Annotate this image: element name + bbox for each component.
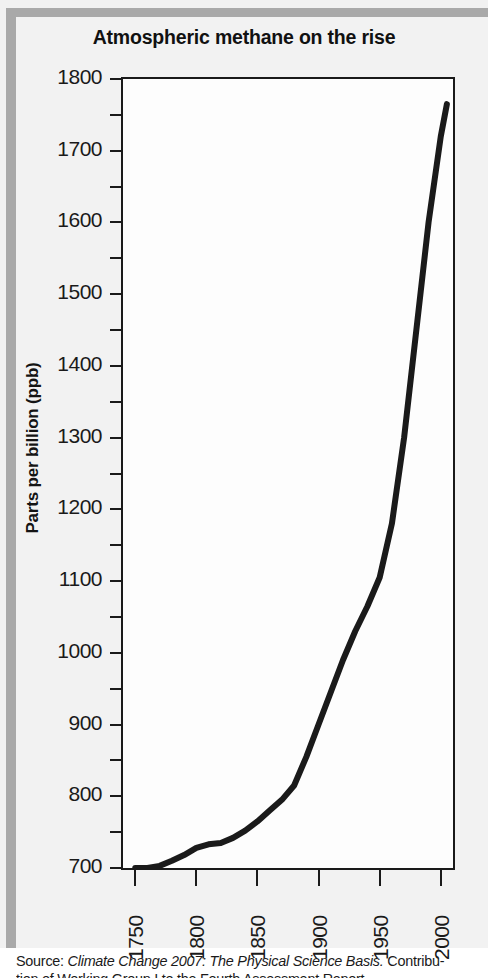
y-axis-minor-tick-1750 <box>110 114 121 116</box>
y-axis-label-1300: 1300 <box>36 424 102 448</box>
y-axis-label-1200: 1200 <box>36 495 102 519</box>
y-axis-tick-1500 <box>110 293 121 295</box>
y-axis-tick-1600 <box>110 221 121 223</box>
y-axis-label-700: 700 <box>36 854 102 878</box>
x-axis-label-1900: 1900 <box>308 890 330 960</box>
x-axis-label-1850: 1850 <box>246 890 268 960</box>
y-axis-label-1800: 1800 <box>36 65 102 89</box>
y-axis-label-1000: 1000 <box>36 639 102 663</box>
y-axis-minor-tick-1050 <box>110 616 121 618</box>
x-axis-label-1800: 1800 <box>185 890 207 960</box>
x-axis-tick-1950 <box>379 870 381 886</box>
y-axis-minor-tick-1650 <box>110 186 121 188</box>
x-axis-label-1950: 1950 <box>369 890 391 960</box>
y-axis-label-900: 900 <box>36 711 102 735</box>
y-axis-minor-tick-1350 <box>110 401 121 403</box>
y-axis-tick-1400 <box>110 365 121 367</box>
y-axis-tick-800 <box>110 795 121 797</box>
y-axis-title: Parts per billion (ppb) <box>23 298 43 598</box>
y-axis-label-800: 800 <box>36 782 102 806</box>
x-axis-tick-2000 <box>440 870 442 886</box>
y-axis-minor-tick-1250 <box>110 473 121 475</box>
y-axis-tick-1000 <box>110 652 121 654</box>
y-axis-minor-tick-1150 <box>110 544 121 546</box>
y-axis-minor-tick-750 <box>110 831 121 833</box>
figure-page: Atmospheric methane on the rise Parts pe… <box>0 0 488 978</box>
x-axis-tick-1850 <box>256 870 258 886</box>
y-axis-label-1100: 1100 <box>36 567 102 591</box>
y-axis-label-1700: 1700 <box>36 137 102 161</box>
plot-area <box>121 77 455 870</box>
y-axis-tick-1200 <box>110 508 121 510</box>
y-axis-label-1600: 1600 <box>36 208 102 232</box>
y-axis-minor-tick-1550 <box>110 257 121 259</box>
y-axis-tick-900 <box>110 724 121 726</box>
y-axis-tick-1300 <box>110 437 121 439</box>
x-axis-tick-1800 <box>195 870 197 886</box>
y-axis-label-1400: 1400 <box>36 352 102 376</box>
x-axis-tick-1900 <box>318 870 320 886</box>
source-caption-line2: tion of Working Group I to the Fourth As… <box>16 971 478 978</box>
source-lead: Source: <box>16 953 68 969</box>
y-axis-tick-1800 <box>110 78 121 80</box>
x-axis-label-1750: 1750 <box>124 890 146 960</box>
x-axis-tick-1750 <box>134 870 136 886</box>
y-axis-tick-1100 <box>110 580 121 582</box>
x-axis-label-2000: 2000 <box>430 890 452 960</box>
source-title-italic: Climate Change 2007: The Physical Scienc… <box>68 953 384 969</box>
y-axis-minor-tick-950 <box>110 688 121 690</box>
y-axis-label-1500: 1500 <box>36 280 102 304</box>
y-axis-minor-tick-850 <box>110 759 121 761</box>
y-axis-minor-tick-1450 <box>110 329 121 331</box>
methane-line-chart <box>123 79 453 868</box>
y-axis-tick-700 <box>110 867 121 869</box>
y-axis-tick-1700 <box>110 150 121 152</box>
methane-series-line <box>135 104 447 868</box>
